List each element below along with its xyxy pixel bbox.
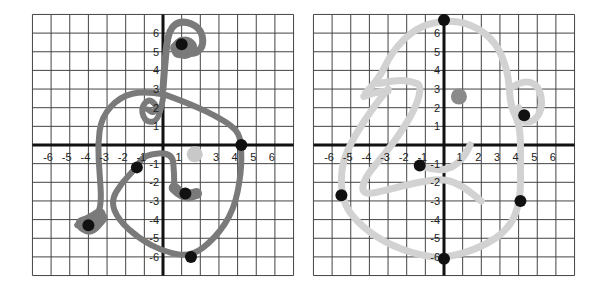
x-tick-label: 3 bbox=[494, 151, 500, 163]
right-coordinate-grid: -6-5-4-3-2-1123456654321-1-2-3-4-5-6 bbox=[280, 0, 600, 289]
black-point bbox=[514, 195, 526, 207]
left-graph-panel: -6-5-4-3-2-1123456654321-1-2-3-4-5-6 bbox=[0, 0, 300, 289]
black-point bbox=[131, 161, 143, 173]
x-tick-label: -2 bbox=[399, 151, 409, 163]
x-tick-label: 4 bbox=[232, 151, 238, 163]
x-tick-label: 6 bbox=[269, 151, 275, 163]
x-tick-label: -3 bbox=[99, 151, 109, 163]
y-tick-label: -6 bbox=[149, 251, 159, 263]
black-point bbox=[179, 187, 191, 199]
y-tick-label: 6 bbox=[434, 27, 440, 39]
black-point bbox=[176, 38, 188, 50]
y-tick-label: -5 bbox=[430, 232, 440, 244]
x-tick-label: -2 bbox=[118, 151, 128, 163]
x-tick-label: 1 bbox=[457, 151, 463, 163]
drawn-curves bbox=[341, 21, 541, 257]
gray-point bbox=[187, 146, 203, 162]
black-point bbox=[185, 251, 197, 263]
y-tick-label: -1 bbox=[149, 158, 159, 170]
gray-point bbox=[451, 89, 467, 105]
x-tick-label: 6 bbox=[550, 151, 556, 163]
black-point bbox=[518, 109, 530, 121]
right-graph-panel: -6-5-4-3-2-1123456654321-1-2-3-4-5-6 bbox=[280, 0, 580, 289]
x-tick-label: 1 bbox=[176, 151, 182, 163]
y-tick-label: 3 bbox=[153, 83, 159, 95]
x-tick-label: -5 bbox=[62, 151, 72, 163]
black-point bbox=[82, 219, 94, 231]
x-tick-label: -6 bbox=[324, 151, 334, 163]
y-tick-label: -3 bbox=[430, 195, 440, 207]
y-tick-label: -4 bbox=[430, 214, 440, 226]
x-tick-label: 5 bbox=[531, 151, 537, 163]
y-tick-label: -4 bbox=[149, 214, 159, 226]
black-point bbox=[335, 189, 347, 201]
left-coordinate-grid: -6-5-4-3-2-1123456654321-1-2-3-4-5-6 bbox=[0, 0, 300, 289]
y-tick-label: 6 bbox=[153, 27, 159, 39]
x-tick-label: -4 bbox=[362, 151, 372, 163]
x-tick-label: 4 bbox=[513, 151, 519, 163]
y-tick-label: 2 bbox=[434, 102, 440, 114]
black-point bbox=[235, 139, 247, 151]
black-point bbox=[438, 253, 450, 265]
x-tick-label: -3 bbox=[380, 151, 390, 163]
x-tick-label: 5 bbox=[250, 151, 256, 163]
x-tick-label: -5 bbox=[343, 151, 353, 163]
y-tick-label: 5 bbox=[153, 46, 159, 58]
x-tick-label: -1 bbox=[136, 151, 146, 163]
x-tick-label: -6 bbox=[43, 151, 53, 163]
black-point bbox=[414, 160, 426, 172]
y-tick-label: 4 bbox=[434, 64, 440, 76]
x-tick-label: 2 bbox=[475, 151, 481, 163]
y-tick-label: 4 bbox=[153, 64, 159, 76]
y-tick-label: -2 bbox=[149, 176, 159, 188]
y-tick-label: -2 bbox=[430, 176, 440, 188]
y-tick-label: 5 bbox=[434, 46, 440, 58]
x-tick-label: -4 bbox=[81, 151, 91, 163]
y-tick-label: -3 bbox=[149, 195, 159, 207]
y-tick-label: 1 bbox=[153, 120, 159, 132]
y-tick-label: -1 bbox=[430, 158, 440, 170]
y-tick-label: -5 bbox=[149, 232, 159, 244]
x-tick-label: 3 bbox=[213, 151, 219, 163]
y-tick-label: 2 bbox=[153, 102, 159, 114]
black-point bbox=[438, 14, 450, 26]
y-tick-label: 3 bbox=[434, 83, 440, 95]
y-tick-label: 1 bbox=[434, 120, 440, 132]
